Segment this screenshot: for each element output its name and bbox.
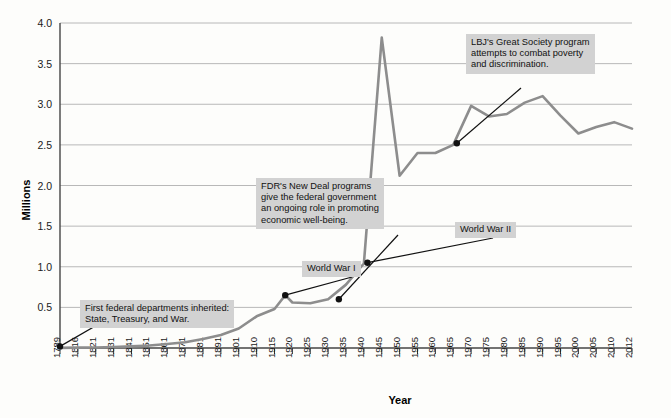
y-tick-label: 4.0 <box>37 17 52 29</box>
x-tick-label: 1970 <box>462 337 473 358</box>
new-deal-marker <box>336 296 342 302</box>
x-tick-label: 1861 <box>158 337 169 358</box>
world-war-1-annotation: World War I <box>302 261 361 277</box>
x-tick-label: 1980 <box>498 337 509 358</box>
world-war-2-marker <box>364 259 370 265</box>
y-tick-label: 2.0 <box>37 180 52 192</box>
x-tick-label: 1995 <box>552 337 563 358</box>
x-tick-label: 1950 <box>391 337 402 358</box>
x-tick-label: 1910 <box>248 337 259 358</box>
first-departments-marker <box>57 343 63 349</box>
x-tick-label: 2012 <box>623 337 634 358</box>
x-tick-label: 1925 <box>301 337 312 358</box>
x-tick-label: 1851 <box>140 337 151 358</box>
world-war-2-annotation: World War II <box>455 222 516 238</box>
y-tick-label: 1.5 <box>37 220 52 232</box>
leader-world-war-2 <box>367 238 493 263</box>
x-tick-label: 1930 <box>319 337 330 358</box>
x-tick-label: 1871 <box>176 337 187 358</box>
x-tick-label: 1955 <box>409 337 420 358</box>
x-tick-label: 2000 <box>569 337 580 358</box>
x-tick-label: 1985 <box>516 337 527 358</box>
x-tick-label: 2010 <box>605 337 616 358</box>
x-tick-label: 1935 <box>337 337 348 358</box>
x-tick-label: 1891 <box>212 337 223 358</box>
y-tick-label: 3.5 <box>37 58 52 70</box>
x-tick-label: 1965 <box>444 337 455 358</box>
x-tick-label: 2005 <box>587 337 598 358</box>
x-tick-label: 1915 <box>266 337 277 358</box>
world-war-1-marker <box>282 292 288 298</box>
x-tick-label: 1920 <box>283 337 294 358</box>
y-tick-label: 0.5 <box>37 301 52 313</box>
lbj-great-society-annotation: LBJ's Great Society program attempts to … <box>466 34 595 74</box>
x-tick-label: 1960 <box>426 337 437 358</box>
y-tick-label: 2.5 <box>37 139 52 151</box>
fdr-new-deal-annotation: FDR's New Deal programs give the federal… <box>256 178 384 229</box>
y-tick-label: 1.0 <box>37 261 52 273</box>
x-tick-label: 1990 <box>534 337 545 358</box>
x-tick-label: 1975 <box>480 337 491 358</box>
x-axis-title: Year <box>388 394 412 406</box>
great-society-marker <box>454 140 460 146</box>
y-axis-title: Millions <box>20 180 32 221</box>
first-federal-departments-annotation: First federal departments inherited: Sta… <box>80 300 234 328</box>
x-tick-label: 1901 <box>230 337 241 358</box>
y-tick-labels-group: 0.51.01.52.02.53.03.54.0 <box>37 17 52 313</box>
y-tick-label: 3.0 <box>37 98 52 110</box>
x-tick-label: 1940 <box>355 337 366 358</box>
x-tick-label: 1945 <box>373 337 384 358</box>
chart-container: 0.51.01.52.02.53.03.54.0 178918161821183… <box>0 0 671 418</box>
leader-world-war-1 <box>285 277 352 295</box>
